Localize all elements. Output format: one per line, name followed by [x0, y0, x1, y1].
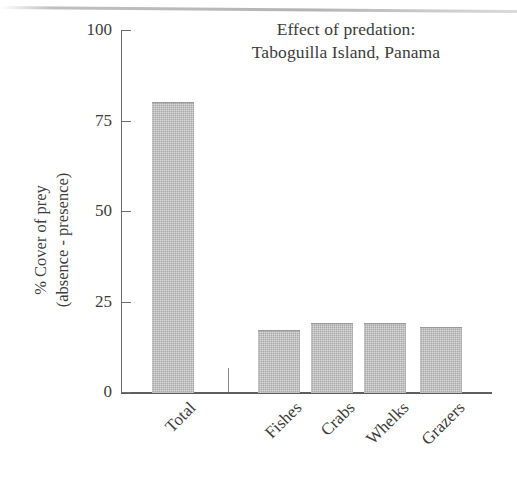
bar-grazers [420, 327, 462, 393]
bar-whelks [364, 323, 406, 393]
scan-artifact-line [0, 6, 517, 13]
y-axis-tick-label-100: 100 [52, 20, 112, 40]
figure-bar-chart: Effect of predation: Taboguilla Island, … [0, 0, 517, 496]
y-axis-tick-label-50: 50 [52, 201, 112, 221]
bar-fishes [258, 330, 300, 393]
x-axis-tick-label-crabs: Crabs [260, 398, 359, 496]
y-axis-tick-label-75: 75 [52, 111, 112, 131]
chart-title: Effect of predation: Taboguilla Island, … [196, 18, 496, 64]
y-axis-label-line-1: % Cover of prey [30, 173, 52, 308]
y-axis-label-line-2: (absence - presence) [52, 173, 74, 308]
x-axis-tick-label-total: Total [101, 398, 200, 496]
y-axis-tick-50 [121, 211, 131, 212]
chart-title-line-1: Effect of predation: [196, 18, 496, 41]
bar-crabs [311, 323, 353, 393]
y-axis-tick-label-25: 25 [52, 292, 112, 312]
x-axis-group-separator [228, 368, 229, 392]
x-axis-tick-label-fishes: Fishes [207, 398, 306, 496]
y-axis-tick-75 [121, 121, 131, 122]
y-axis-label: % Cover of prey (absence - presence) [22, 100, 82, 380]
y-axis-tick-0 [121, 392, 131, 393]
bar-total [152, 102, 194, 393]
chart-title-line-2: Taboguilla Island, Panama [196, 41, 496, 64]
y-axis-tick-25 [121, 302, 131, 303]
y-axis-tick-label-0: 0 [52, 382, 112, 402]
y-axis-tick-100 [121, 30, 131, 31]
